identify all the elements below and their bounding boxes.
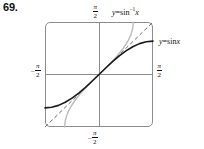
curve-label-sin: y=sinx xyxy=(159,38,180,46)
tick-right-fraction: π 2 xyxy=(157,63,163,79)
tick-label-bottom: – π 2 xyxy=(88,130,98,146)
tick-bottom-denominator: 2 xyxy=(93,138,97,146)
tick-left-denominator: 2 xyxy=(36,71,40,79)
figure-container: 69. π 2 – π 2 – π 2 xyxy=(0,0,204,149)
tick-bottom-sign: – xyxy=(88,135,92,142)
tick-label-left: – π 2 xyxy=(31,63,41,79)
sine-curve xyxy=(45,41,153,108)
curve-label-arcsin: y=sin−1x xyxy=(112,9,139,17)
tick-label-top: π 2 xyxy=(92,4,98,20)
arcsin-label-arg: x xyxy=(135,8,139,17)
tick-top-fraction: π 2 xyxy=(93,4,99,20)
tick-label-right: π 2 xyxy=(156,63,162,79)
curve-layer xyxy=(45,22,153,127)
sin-label-arg: x xyxy=(176,37,180,46)
problem-number: 69. xyxy=(3,2,18,13)
tick-top-denominator: 2 xyxy=(94,12,98,20)
tick-left-fraction: π 2 xyxy=(35,63,41,79)
tick-bottom-fraction: π 2 xyxy=(92,130,98,146)
tick-right-denominator: 2 xyxy=(158,71,162,79)
tick-left-sign: – xyxy=(31,68,35,75)
